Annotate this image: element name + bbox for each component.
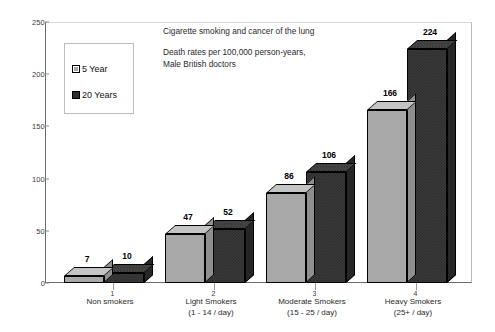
chart-subtitle-line-2: Male British doctors: [163, 58, 314, 71]
category-name: Light Smokers: [185, 296, 236, 307]
bar-value-label: 52: [223, 207, 232, 217]
x-axis-category-label: Light Smokers(1 - 14 / day): [185, 296, 236, 318]
bar-side-face: [407, 93, 416, 283]
bar-side-face: [447, 32, 456, 283]
x-axis-tick-mark: [113, 283, 114, 290]
bar-chart: 050100150200250 1234 107524710686224166 …: [0, 0, 495, 332]
legend-swatch-icon-20-years: [72, 91, 80, 99]
y-axis-tick-mark: [45, 126, 49, 127]
bar-value-label: 86: [284, 171, 293, 181]
legend-label-20-years: 20 Years: [82, 90, 117, 100]
chart-subtitle-line-1: Death rates per 100,000 person-years,: [163, 46, 314, 59]
y-axis-tick-mark: [45, 283, 49, 284]
bar-front-face: [64, 276, 104, 283]
bar-front-face: [165, 234, 205, 283]
bar-value-label: 106: [322, 150, 336, 160]
category-name: Heavy Smokers: [385, 296, 441, 307]
y-axis-tick-mark: [45, 230, 49, 231]
category-name: Moderate Smokers: [278, 296, 346, 307]
y-axis-tick-mark: [45, 22, 49, 23]
y-axis-tick-mark: [45, 74, 49, 75]
x-axis-tick-mark: [315, 283, 316, 290]
bar-5-year: [64, 267, 104, 283]
bar-side-face: [306, 176, 315, 283]
legend-item-5-year: 5 Year: [72, 64, 108, 74]
y-axis-tick-label: 250: [19, 18, 45, 27]
category-sublabel: (15 - 25 / day): [278, 307, 346, 318]
x-axis-category-label: Non smokers: [86, 296, 133, 307]
bar-front-face: [367, 110, 407, 283]
y-axis-tick-label: 150: [19, 122, 45, 131]
legend-swatch-icon-5-year: [72, 65, 80, 73]
y-axis-tick-label: 100: [19, 174, 45, 183]
x-axis-category-label: Moderate Smokers(15 - 25 / day): [278, 296, 346, 318]
bar-5-year: [367, 101, 407, 283]
legend-item-20-years: 20 Years: [72, 90, 117, 100]
x-axis-tick-mark: [416, 283, 417, 290]
bar-value-label: 7: [85, 254, 90, 264]
bar-5-year: [266, 184, 306, 283]
category-name: Non smokers: [86, 296, 133, 307]
bar-value-label: 224: [423, 27, 437, 37]
chart-legend: 5 Year 20 Years: [64, 43, 134, 114]
legend-label-5-year: 5 Year: [82, 64, 108, 74]
category-sublabel: (1 - 14 / day): [185, 307, 236, 318]
chart-title: Cigarette smoking and cancer of the lung: [163, 25, 314, 38]
category-sublabel: (25+ / day): [385, 307, 441, 318]
bar-side-face: [346, 155, 355, 283]
x-axis-category-label: Heavy Smokers(25+ / day): [385, 296, 441, 318]
bar-value-label: 166: [383, 88, 397, 98]
bar-value-label: 10: [122, 251, 131, 261]
y-axis-tick-mark: [45, 178, 49, 179]
bar-value-label: 47: [183, 212, 192, 222]
bar-front-face: [266, 193, 306, 283]
chart-title-block: Cigarette smoking and cancer of the lung…: [163, 25, 314, 71]
y-axis-tick-label: 0: [19, 279, 45, 288]
bar-5-year: [165, 225, 205, 283]
x-axis-tick-mark: [214, 283, 215, 290]
y-axis-tick-label: 50: [19, 226, 45, 235]
y-axis-tick-label: 200: [19, 70, 45, 79]
